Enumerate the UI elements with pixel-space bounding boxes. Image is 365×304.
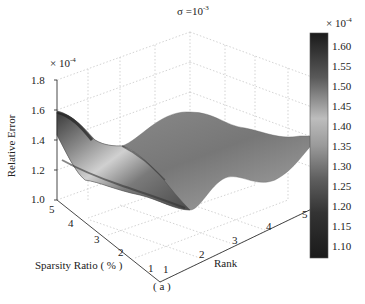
z-tick: 1.6 xyxy=(31,104,45,116)
title-exp: -3 xyxy=(203,4,209,12)
figure-caption: ( a ) xyxy=(153,280,171,292)
surface xyxy=(57,112,320,210)
x-tick: 2 xyxy=(199,248,205,260)
z-tick: 1.8 xyxy=(31,74,45,86)
z-axis-label: Relative Error xyxy=(5,115,17,178)
colorbar-tick: 1.45 xyxy=(332,100,351,112)
z-tick: 1.2 xyxy=(31,164,45,176)
colorbar-scale-exp: -4 xyxy=(346,16,352,24)
z-scale-label: × 10-4 xyxy=(50,56,76,69)
chart-title: σ =10-3 xyxy=(177,4,209,17)
z-scale-exp: -4 xyxy=(70,56,76,64)
z-tick: 1.4 xyxy=(31,134,45,146)
y-tick: 1 xyxy=(148,262,154,274)
x-tick: 5 xyxy=(302,208,308,220)
colorbar-scale-base: × 10 xyxy=(326,17,346,29)
colorbar-tick: 1.10 xyxy=(332,240,351,252)
y-tick: 4 xyxy=(68,217,74,229)
colorbar-tick: 1.55 xyxy=(332,60,351,72)
y-tick: 3 xyxy=(94,233,100,245)
colorbar xyxy=(310,33,328,258)
z-scale-base: × 10 xyxy=(50,57,70,69)
colorbar-tick: 1.20 xyxy=(332,200,351,212)
x-axis-label: Rank xyxy=(214,257,237,269)
x-tick: 1 xyxy=(163,263,169,275)
colorbar-tick: 1.15 xyxy=(332,220,351,232)
title-base: σ =10 xyxy=(177,5,203,17)
colorbar-scale-label: × 10-4 xyxy=(326,16,352,29)
z-tick: 1.0 xyxy=(31,193,45,205)
colorbar-tick: 1.60 xyxy=(332,40,351,52)
y-axis-label: Sparsity Ratio ( % ) xyxy=(35,259,122,271)
colorbar-tick: 1.25 xyxy=(332,180,351,192)
x-tick: 4 xyxy=(266,220,272,232)
x-tick: 3 xyxy=(232,234,238,246)
colorbar-tick: 1.40 xyxy=(332,120,351,132)
colorbar-tick: 1.30 xyxy=(332,160,351,172)
y-tick: 2 xyxy=(118,246,124,258)
colorbar-tick: 1.50 xyxy=(332,80,351,92)
colorbar-tick: 1.35 xyxy=(332,140,351,152)
y-tick: 5 xyxy=(49,203,55,215)
